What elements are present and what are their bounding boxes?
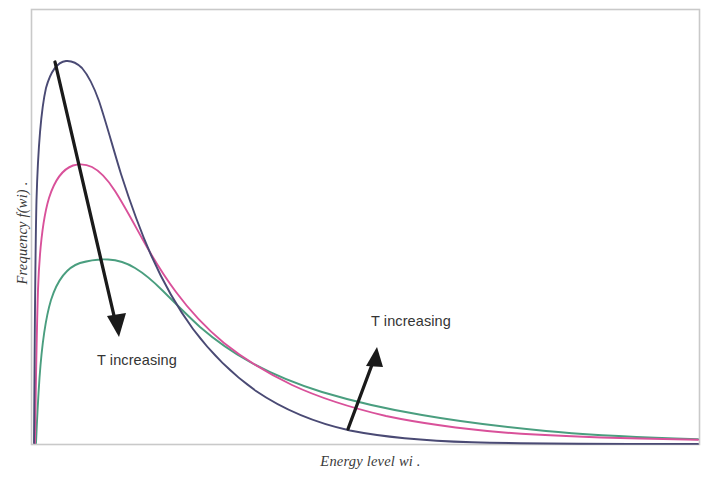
low-temperature-curve (34, 61, 698, 444)
annotation-t-increasing-left: T increasing (97, 352, 177, 368)
chart-figure: Frequency f(wi) . Energy level wi . T in… (0, 0, 717, 477)
medium-temperature-curve (35, 164, 698, 443)
x-axis-label-wrapper: Energy level wi . (0, 452, 717, 470)
y-axis-label-wrapper: Frequency f(wi) . (13, 133, 35, 333)
y-axis-label: Frequency f(wi) . (14, 181, 31, 284)
distribution-plot (0, 0, 717, 477)
annotation-t-increasing-right: T increasing (371, 313, 451, 329)
x-axis-label: Energy level wi . (296, 453, 420, 470)
t-increasing-right-arrow (348, 347, 383, 429)
t-increasing-left-arrow (55, 62, 126, 337)
